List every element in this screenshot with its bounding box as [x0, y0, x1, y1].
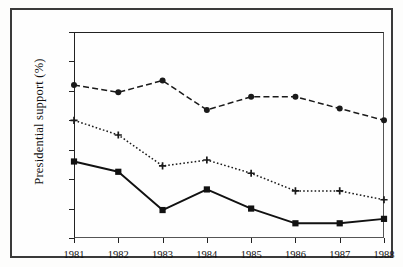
data-point-marker	[292, 94, 298, 100]
data-point-marker	[380, 196, 387, 203]
chart-figure: Presidential support (%) 203040506070809…	[0, 0, 403, 267]
y-axis-title: Presidential support (%)	[32, 32, 47, 212]
data-point-marker	[248, 94, 254, 100]
data-point-marker	[336, 187, 343, 194]
series-dotted-plus-series	[70, 117, 387, 204]
data-point-marker	[337, 220, 343, 226]
data-point-marker	[159, 162, 166, 169]
x-tick-label: 1988	[374, 249, 395, 260]
x-tick-label: 1982	[108, 249, 129, 260]
x-tick-label: 1985	[241, 249, 262, 260]
series-line	[74, 81, 384, 121]
series-dashed-circle-series	[71, 78, 387, 124]
data-point-marker	[292, 220, 298, 226]
x-tick-mark	[163, 238, 164, 243]
x-tick-label: 1981	[64, 249, 85, 260]
x-tick-label: 1986	[285, 249, 306, 260]
series-layer	[74, 32, 384, 238]
x-tick-label: 1983	[152, 249, 173, 260]
x-tick-mark	[340, 238, 341, 243]
x-tick-label: 1984	[196, 249, 217, 260]
x-tick-label: 1987	[329, 249, 350, 260]
data-point-marker	[71, 82, 77, 88]
data-point-marker	[160, 78, 166, 84]
data-point-marker	[204, 107, 210, 113]
x-tick-mark	[251, 238, 252, 243]
data-point-marker	[70, 117, 77, 124]
data-point-marker	[337, 106, 343, 112]
x-tick-mark	[295, 238, 296, 243]
data-point-marker	[292, 187, 299, 194]
x-tick-mark	[207, 238, 208, 243]
series-line	[74, 120, 384, 199]
data-point-marker	[203, 156, 210, 163]
x-tick-mark	[74, 238, 75, 243]
data-point-marker	[71, 158, 77, 164]
data-point-marker	[381, 117, 387, 123]
data-point-marker	[248, 205, 254, 211]
figure-frame: Presidential support (%) 203040506070809…	[10, 8, 393, 258]
data-point-marker	[159, 207, 165, 213]
x-tick-mark	[118, 238, 119, 243]
data-point-marker	[115, 89, 121, 95]
data-point-marker	[204, 186, 210, 192]
data-point-marker	[381, 216, 387, 222]
plot-area: 2030405060708090 19811982198319841985198…	[74, 32, 384, 238]
data-point-marker	[115, 169, 121, 175]
x-tick-mark	[384, 238, 385, 243]
data-point-marker	[248, 170, 255, 177]
